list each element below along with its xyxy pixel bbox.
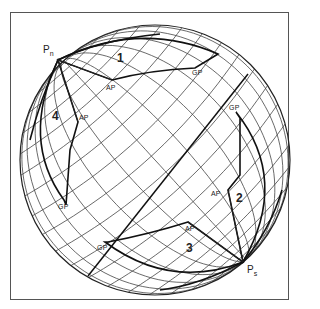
pole-letter: P bbox=[247, 264, 254, 275]
region-label-2: 2 bbox=[236, 192, 243, 204]
region-label-1: 1 bbox=[117, 52, 124, 64]
pole-subscript: n bbox=[50, 50, 54, 57]
point-label-gp: GP bbox=[229, 104, 240, 111]
pole-subscript: s bbox=[254, 270, 258, 277]
point-label-gp: GP bbox=[192, 69, 203, 76]
point-label-gp: GP bbox=[97, 244, 108, 251]
pole-letter: P bbox=[43, 44, 50, 55]
point-label-ap: AP bbox=[185, 225, 195, 232]
point-label-gp: GP bbox=[58, 203, 69, 210]
point-label-ap: AP bbox=[211, 190, 221, 197]
region-label-4: 4 bbox=[52, 110, 59, 122]
north-pole-label: Pn bbox=[43, 45, 54, 57]
point-label-ap: AP bbox=[79, 114, 89, 121]
point-label-ap: AP bbox=[106, 84, 116, 91]
region-label-3: 3 bbox=[186, 242, 193, 254]
south-pole-label: Ps bbox=[247, 265, 257, 277]
